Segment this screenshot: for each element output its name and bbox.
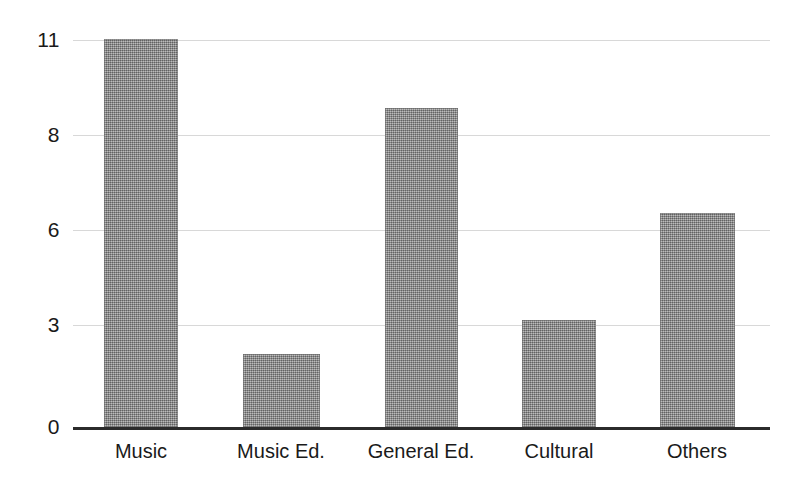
bar-chart: 11 8 6 3 0 Music Music Ed. General Ed. C… [0,0,802,486]
bar-general-ed[interactable] [385,108,458,427]
bar-cultural[interactable] [522,320,596,427]
bar-music-ed[interactable] [243,354,320,427]
y-tick-label-8: 8 [14,124,60,145]
x-axis-line [73,427,770,430]
y-tick-label-6: 6 [14,219,60,240]
y-tick-label-11: 11 [14,29,60,50]
y-tick-label-0: 0 [14,416,60,437]
y-tick-label-3: 3 [14,314,60,335]
bar-others[interactable] [660,213,735,427]
plot-area: 11 8 6 3 0 Music Music Ed. General Ed. C… [0,0,802,486]
x-tick-label-others: Others [597,440,797,462]
bar-music[interactable] [104,39,178,427]
